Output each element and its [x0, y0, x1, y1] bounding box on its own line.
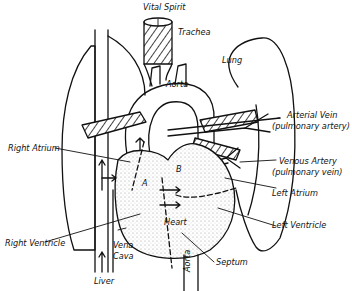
label-left-ventricle: Left Ventricle [272, 220, 326, 230]
label-right-ventricle: Right Ventricle [5, 238, 65, 248]
label-venous-artery-sub: (pulmonary vein) [272, 167, 342, 177]
label-arterial-vein: Arterial Vein [287, 110, 337, 120]
right-lung [62, 46, 95, 250]
label-lung: Lung [222, 55, 242, 65]
label-vena: Vena [113, 240, 133, 250]
label-liver: Liver [94, 276, 114, 286]
label-heart: Heart [164, 217, 187, 227]
label-trachea: Trachea [178, 27, 211, 37]
label-septum: Septum [216, 257, 248, 267]
left-lung [229, 38, 295, 251]
label-point-a: A [142, 178, 148, 188]
label-venous-artery: Venous Artery [279, 156, 337, 166]
label-cava: Cava [113, 251, 134, 261]
label-vital-spirit: Vital Spirit [143, 2, 186, 12]
label-aorta-top: Aorta [166, 79, 188, 89]
label-aorta-bottom: Aorta [182, 250, 192, 272]
heart-diagram: Vital Spirit Trachea Aorta Lung Arterial… [0, 0, 352, 291]
label-arterial-vein-sub: (pulmonary artery) [272, 121, 350, 131]
label-point-b: B [176, 164, 182, 174]
label-left-atrium: Left Atrium [272, 188, 318, 198]
label-right-atrium: Right Atrium [8, 143, 60, 153]
